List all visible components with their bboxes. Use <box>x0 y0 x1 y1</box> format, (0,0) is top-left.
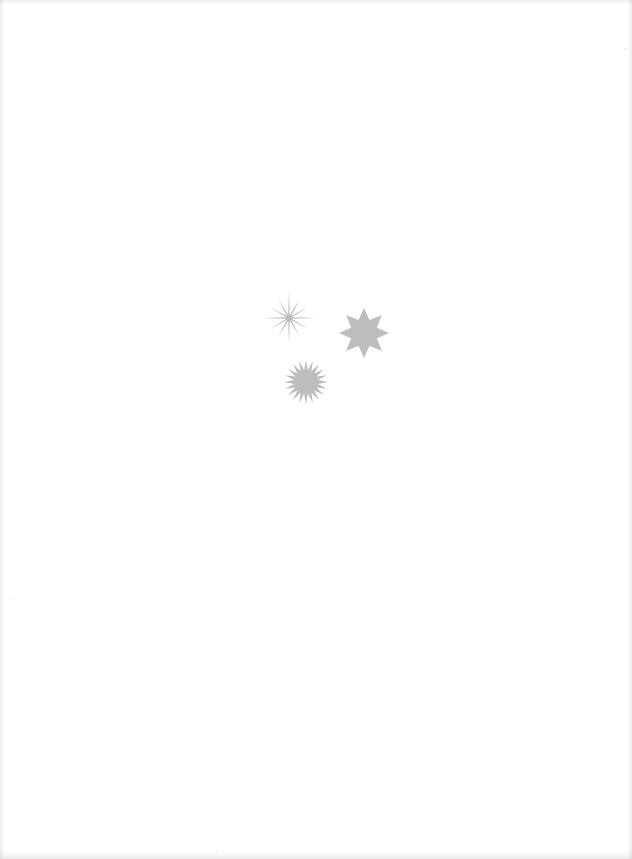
page-edge-left <box>0 0 4 859</box>
scan-speck <box>10 598 11 599</box>
thin-star-icon <box>259 288 319 348</box>
scan-speck <box>216 851 217 852</box>
page-edge-right <box>628 0 632 859</box>
blank-page <box>0 0 632 859</box>
scan-speck <box>624 48 625 49</box>
page-edge-bottom <box>0 851 632 859</box>
eight-point-star-icon <box>336 305 392 361</box>
sunburst-icon <box>281 357 331 407</box>
page-edge-top <box>0 0 632 4</box>
